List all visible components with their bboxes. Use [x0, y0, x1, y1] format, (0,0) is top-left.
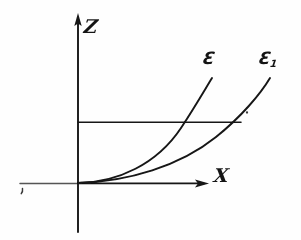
diagram-canvas	[0, 0, 301, 240]
left-tick-mark-icon	[21, 189, 22, 194]
curve-epsilon-1-path	[78, 78, 270, 183]
z-axis-label: Z	[83, 17, 99, 36]
curve-epsilon-label: Ɛ	[202, 50, 216, 67]
figure-container: Z X Ɛ Ɛ1	[0, 0, 301, 240]
curve-epsilon-1-label: Ɛ1	[258, 50, 279, 69]
intersection-dot-icon	[246, 111, 248, 113]
curve-epsilon-path	[78, 78, 212, 183]
x-axis-label: X	[213, 166, 230, 185]
